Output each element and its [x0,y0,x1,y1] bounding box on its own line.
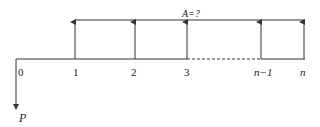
annuity-arrows [75,22,304,59]
period-label-n: n [300,67,306,78]
period-label-n-minus-1: n−1 [254,67,272,78]
period-label-3: 3 [184,67,190,78]
period-label-2: 2 [131,67,137,78]
annuity-label: A=? [182,9,200,19]
period-label-0: 0 [18,67,24,78]
present-value-label: P [19,112,26,124]
cash-flow-graphic [0,0,320,127]
cash-flow-diagram: A=? 0 1 2 3 n−1 n P [0,0,320,127]
down-arrow-head [13,104,19,110]
period-label-1: 1 [73,67,79,78]
